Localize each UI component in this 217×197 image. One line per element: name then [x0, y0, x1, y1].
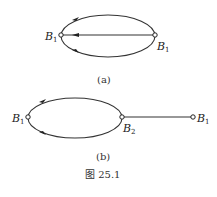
label-b1-left: B1: [44, 30, 58, 44]
node-b1-left: [26, 115, 30, 119]
label-b2: B2: [122, 122, 136, 136]
node-b1-right: [153, 33, 157, 37]
panel-a: B1 B1 (a): [44, 15, 170, 85]
arrow-icon: [72, 33, 79, 37]
label-b1-right: B1: [196, 112, 210, 126]
panel-b-label: (b): [96, 151, 110, 162]
node-b1-right: [191, 115, 195, 119]
graph-figure: B1 B1 (a) B1 B2 B1 (b) 图 25.1: [0, 0, 217, 197]
node-b2: [120, 115, 124, 119]
panel-b: B1 B2 B1 (b): [11, 98, 210, 162]
label-b1-left: B1: [11, 112, 25, 126]
label-b1-right: B1: [156, 40, 170, 54]
figure-caption: 图 25.1: [85, 169, 120, 180]
panel-a-label: (a): [97, 74, 111, 85]
node-b1-left: [59, 33, 63, 37]
